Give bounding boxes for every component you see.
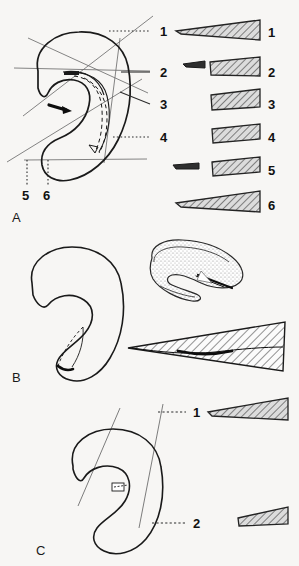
leader-label-a-1: 1 bbox=[160, 24, 167, 39]
figure-background bbox=[0, 0, 299, 566]
section-label-a-2: 2 bbox=[268, 65, 275, 80]
anatomical-figure-svg: 1 2 3 4 5 6 1 2 3 4 5 6 A bbox=[0, 0, 299, 566]
leader-label-c-1: 1 bbox=[193, 405, 200, 420]
leader-label-a-6: 6 bbox=[43, 188, 50, 203]
section-label-a-4: 4 bbox=[268, 130, 276, 145]
panel-label-c: C bbox=[36, 543, 45, 558]
leader-label-a-3: 3 bbox=[160, 97, 167, 112]
leader-label-c-2: 2 bbox=[193, 516, 200, 531]
leader-label-a-4: 4 bbox=[160, 130, 168, 145]
section-label-a-5: 5 bbox=[268, 163, 275, 178]
panel-label-b: B bbox=[12, 370, 21, 385]
section-label-a-3: 3 bbox=[268, 97, 275, 112]
section-label-a-6: 6 bbox=[268, 198, 275, 213]
panel-label-a: A bbox=[12, 210, 21, 225]
section-label-a-1: 1 bbox=[268, 25, 275, 40]
leader-label-a-5: 5 bbox=[22, 188, 29, 203]
leader-label-a-2: 2 bbox=[160, 65, 167, 80]
figure-container: 1 2 3 4 5 6 1 2 3 4 5 6 A bbox=[0, 0, 299, 566]
